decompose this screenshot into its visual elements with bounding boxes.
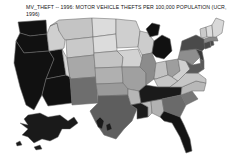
state-CO [67, 55, 96, 79]
map-figure: MV_THEFT -- 1996: MOTOR VEHICLE THEFTS P… [0, 0, 239, 162]
state-KS [95, 67, 123, 84]
state-NM [70, 77, 98, 105]
choropleth-map [0, 17, 239, 162]
state-SD [93, 34, 117, 53]
state-WY [66, 37, 94, 58]
figure-title-line-1: MV_THEFT -- 1996: MOTOR VEHICLE THEFTS P… [26, 4, 232, 11]
state-ME [212, 18, 224, 37]
state-FL [160, 111, 192, 153]
state-OK [96, 83, 128, 96]
state-AZ [42, 75, 72, 106]
state-NE [94, 51, 123, 68]
state-ND [92, 18, 116, 37]
state-AK [16, 113, 78, 150]
state-MN [116, 19, 140, 48]
us-states-svg [0, 17, 239, 162]
